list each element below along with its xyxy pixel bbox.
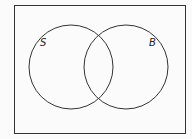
set-b-label: B (149, 37, 156, 48)
universal-set-rectangle (15, 6, 186, 134)
venn-diagram: S B (0, 0, 192, 139)
set-s-label: S (40, 37, 47, 48)
